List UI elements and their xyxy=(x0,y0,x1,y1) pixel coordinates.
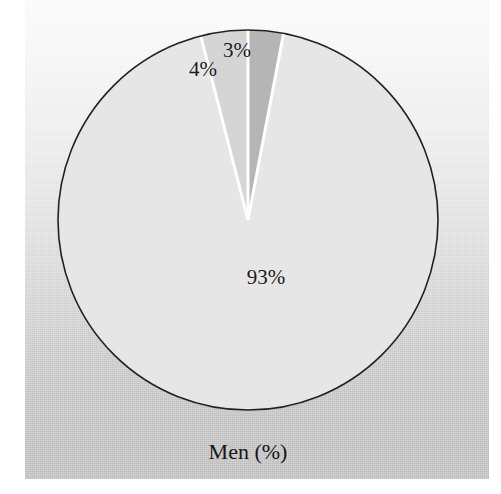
pie-slice-label-93: 93% xyxy=(247,265,286,290)
pie-chart-svg xyxy=(0,0,501,494)
pie-slice-label-4: 4% xyxy=(189,57,217,82)
chart-caption: Men (%) xyxy=(209,439,288,465)
pie-slice-label-3: 3% xyxy=(223,38,251,63)
pie-chart-figure: 3% 93% 4% Men (%) xyxy=(0,0,501,494)
